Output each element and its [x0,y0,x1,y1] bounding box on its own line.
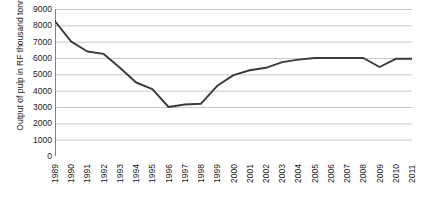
x-tick-label: 1996 [165,149,174,183]
x-tick-label: 2011 [408,149,417,183]
pulp-output-line-chart: Output of pulp in RF thousand tonnes 900… [0,0,426,216]
x-tick-label: 2001 [246,149,255,183]
y-axis-tick-labels: 9000800070006000500040003000200010000 [12,0,52,216]
y-tick-label: 1000 [12,135,52,144]
x-tick-label: 2009 [376,149,385,183]
y-tick-label: 5000 [12,70,52,79]
x-tick-label: 1997 [181,149,190,183]
x-tick-label: 2000 [230,149,239,183]
x-tick-label: 1994 [132,149,141,183]
x-tick-label: 2003 [278,149,287,183]
x-tick-label: 1991 [83,149,92,183]
y-tick-label: 3000 [12,103,52,112]
data-series-line [55,21,412,107]
y-tick-label: 0 [12,152,52,161]
y-tick-label: 2000 [12,119,52,128]
y-tick-label: 6000 [12,54,52,63]
y-tick-label: 8000 [12,21,52,30]
x-tick-label: 1998 [197,149,206,183]
x-tick-label: 2006 [327,149,336,183]
plot-area [55,9,412,156]
x-tick-label: 2007 [343,149,352,183]
x-axis-tick-labels: 1989199019911992199319941995199619971998… [55,158,412,216]
y-tick-label: 9000 [12,5,52,14]
x-tick-label: 2004 [294,149,303,183]
x-tick-label: 1999 [213,149,222,183]
plot-svg [55,9,412,156]
x-tick-label: 2010 [392,149,401,183]
x-tick-label: 2008 [359,149,368,183]
x-tick-label: 2005 [311,149,320,183]
x-tick-label: 1989 [51,149,60,183]
x-tick-label: 1990 [67,149,76,183]
x-tick-label: 2002 [262,149,271,183]
x-tick-label: 1993 [116,149,125,183]
y-tick-label: 4000 [12,86,52,95]
y-tick-label: 7000 [12,37,52,46]
x-tick-label: 1995 [148,149,157,183]
x-tick-label: 1992 [100,149,109,183]
